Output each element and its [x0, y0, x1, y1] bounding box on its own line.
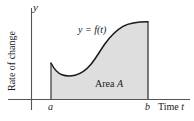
area-label-prefix: Area [95, 78, 117, 89]
tick-label-b: b [145, 102, 150, 112]
x-axis-title-prefix: Time [158, 101, 181, 112]
area-label: Area A [95, 79, 123, 89]
x-axis-title: Time t [158, 102, 184, 112]
tick-label-a: a [48, 102, 53, 112]
x-axis-title-variable: t [181, 101, 184, 112]
y-axis-title: Rate of change [7, 31, 17, 91]
curve-equation-label: y = f(t) [78, 25, 106, 35]
figure-container: y Rate of change Time t y = f(t) Area A … [0, 0, 194, 121]
y-axis-title-wrapper: Rate of change [0, 0, 24, 121]
area-label-variable: A [117, 78, 123, 89]
y-axis-tip-label: y [33, 2, 38, 13]
